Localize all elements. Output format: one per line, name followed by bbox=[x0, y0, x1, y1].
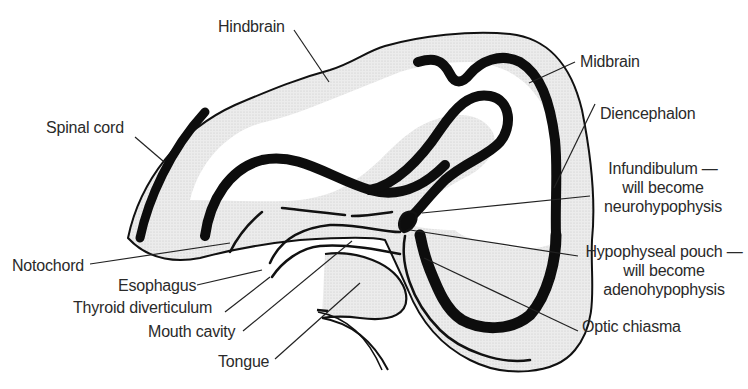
label-infundibulum: Infundibulum — will become neurohypophys… bbox=[593, 159, 733, 216]
label-hypophyseal-line3: adenohypophysis bbox=[580, 280, 748, 299]
label-infundibulum-line1: Infundibulum — bbox=[593, 159, 733, 178]
label-optic-chiasma: Optic chiasma bbox=[582, 317, 681, 336]
label-hypophyseal-line1: Hypophyseal pouch — bbox=[580, 242, 748, 261]
label-notochord: Notochord bbox=[12, 256, 84, 275]
leader-esophagus bbox=[197, 270, 262, 285]
embryo-brain-diagram: Hindbrain Midbrain Spinal cord Diencepha… bbox=[0, 0, 748, 389]
label-infundibulum-line2: will become bbox=[593, 178, 733, 197]
label-infundibulum-line3: neurohypophysis bbox=[593, 197, 733, 216]
label-hypophyseal-pouch: Hypophyseal pouch — will become adenohyp… bbox=[580, 242, 748, 299]
leader-spinal-cord bbox=[135, 137, 163, 161]
label-hypophyseal-line2: will become bbox=[580, 261, 748, 280]
label-thyroid-diverticulum: Thyroid diverticulum bbox=[73, 298, 212, 317]
label-tongue: Tongue bbox=[218, 352, 269, 371]
tongue-shape bbox=[317, 253, 406, 370]
leader-hindbrain bbox=[294, 30, 329, 82]
label-hindbrain: Hindbrain bbox=[218, 17, 285, 36]
leader-thyroid bbox=[225, 277, 270, 312]
label-esophagus: Esophagus bbox=[118, 276, 196, 295]
label-mouth-cavity: Mouth cavity bbox=[148, 322, 235, 341]
label-midbrain: Midbrain bbox=[580, 52, 640, 71]
label-spinal-cord: Spinal cord bbox=[46, 118, 124, 137]
label-diencephalon: Diencephalon bbox=[600, 104, 695, 123]
